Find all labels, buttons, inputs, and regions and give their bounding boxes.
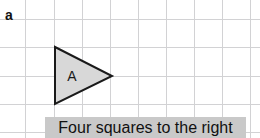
figure-caption: Four squares to the right [45,117,246,138]
figure-canvas: a A Four squares to the right [0,0,260,138]
shape-label-a: A [62,67,82,85]
